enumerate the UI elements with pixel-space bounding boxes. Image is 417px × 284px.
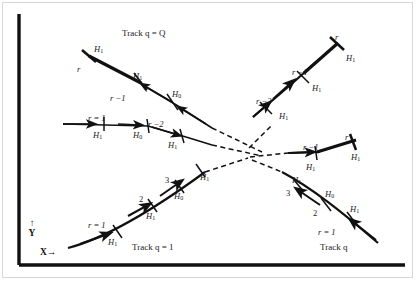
label-subscript: 0 (331, 193, 334, 199)
label-subscript: 1 (356, 208, 359, 214)
dashed-horizontal-to-crossing (212, 145, 262, 156)
label-subscript: 1 (312, 166, 315, 172)
caption-track-q-1: Track q = 1 (132, 243, 174, 252)
track-node-label: r = 1 (318, 228, 336, 237)
dashed-upper-left-to-crossing (212, 128, 262, 152)
dashed-track-q-from-crossing (252, 160, 282, 172)
track-node-label: r −1 (292, 68, 307, 77)
y-axis-arrow: ↑ (30, 218, 35, 228)
track-node-label: H1 (346, 54, 355, 63)
y-axis-name: Y (29, 228, 36, 238)
track-node-label: H1 (168, 141, 177, 150)
segment-r2-downward (178, 106, 212, 128)
track-node-label: H0 (325, 190, 334, 199)
arrow-track-q1-second (128, 205, 148, 216)
segment-middle-right-bold (317, 140, 356, 152)
track-node-label: H1 (306, 163, 315, 172)
track-node-label: H1 (292, 176, 301, 185)
track-node-label: H1 (94, 45, 103, 54)
label-subscript: 1 (139, 75, 142, 81)
track-q-1-lower-left (68, 158, 248, 248)
label-subscript: 1 (352, 57, 355, 63)
track-node-label: H1 (350, 205, 359, 214)
caption-track-q: Track q (320, 243, 347, 252)
track-node-label: r = 1 (88, 221, 106, 230)
track-node-label: H1 (133, 72, 142, 81)
label-subscript: 1 (99, 134, 102, 140)
track-node-label: r −1 (110, 94, 125, 103)
x-axis-label: X→ (40, 248, 56, 258)
track-node-label: H1 (108, 238, 117, 247)
track-node-label: r (335, 33, 338, 42)
label-subscript: 1 (318, 87, 321, 93)
track-node-label: 2 (139, 195, 143, 204)
track-node-label: r (77, 65, 80, 74)
label-subscript: 1 (114, 241, 117, 247)
label-subscript: 1 (298, 179, 301, 185)
segment-track-q1-curve (68, 172, 205, 248)
track-node-label: r −2 (256, 97, 271, 106)
segment-horizontal-tail (186, 137, 212, 145)
label-subscript: 1 (152, 215, 155, 221)
track-q-lower-right (252, 160, 378, 243)
label-subscript: 1 (206, 176, 209, 182)
track-node-label: H1 (146, 212, 155, 221)
track-node-label: r = 1 (88, 114, 106, 123)
dashed-track-q1-to-crossing (205, 158, 248, 172)
caption-track-q-Q: Track q = Q (122, 29, 166, 38)
x-axis-text: X→ (40, 247, 56, 257)
track-node-label: H1 (93, 131, 102, 140)
label-subscript: 1 (357, 156, 360, 162)
track-node-label: 3 (286, 189, 290, 198)
track-node-label: H1 (312, 84, 321, 93)
track-node-label: H1 (279, 112, 288, 121)
label-subscript: 0 (139, 134, 142, 140)
segment-horizontal-second-arrow (118, 124, 140, 125)
track-node-label: H0 (172, 90, 181, 99)
y-axis-label: ↑ Y (22, 219, 42, 239)
track-node-label: 3 (165, 176, 169, 185)
label-subscript: 0 (178, 93, 181, 99)
track-figure: ↑ Y X→ Track q = Q Track q = 1 Track q H… (0, 0, 417, 284)
track-q-Q-upper-left (82, 50, 262, 152)
track-node-label: H1 (351, 153, 360, 162)
track-node-label: r (345, 133, 348, 142)
label-subscript: 1 (174, 144, 177, 150)
track-upper-right (249, 37, 344, 148)
track-node-label: H1 (200, 173, 209, 182)
label-subscript: 1 (285, 115, 288, 121)
track-node-label: H0 (174, 192, 183, 201)
track-diagram-canvas (0, 0, 417, 284)
dashed-upper-right-from-crossing (249, 125, 272, 148)
label-subscript: 0 (180, 195, 183, 201)
track-node-label: H0 (133, 131, 142, 140)
segment-upper-right-bold (304, 43, 338, 73)
arrow-track-q-upper (298, 190, 320, 205)
arrow-middle-right (290, 152, 312, 153)
track-node-label: 2 (313, 209, 317, 218)
arrow-upper-right-mid (273, 82, 292, 99)
label-subscript: 1 (100, 48, 103, 54)
arrow-track-q1-first (80, 234, 108, 244)
track-node-label: r −2 (148, 120, 163, 129)
track-node-label: r −1 (303, 143, 318, 152)
